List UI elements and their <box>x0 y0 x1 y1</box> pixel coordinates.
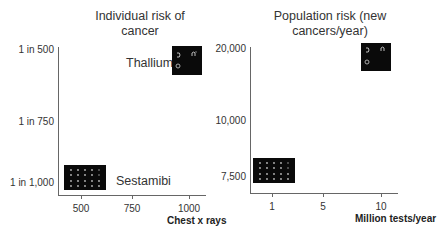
right-x-tick-5: 5 <box>303 201 343 212</box>
right-x-tick-10: 10 <box>361 201 401 212</box>
left-x-tick-750: 750 <box>112 203 152 214</box>
right-y-tick-7500: 7,500 <box>200 171 246 182</box>
sestamibi-scan-image <box>64 165 106 190</box>
right-x-tick-1: 1 <box>252 201 292 212</box>
left-x-tick-1000: 1000 <box>169 203 209 214</box>
thallium-scan-image <box>361 43 391 71</box>
right-y-tick-10000: 10,000 <box>200 115 246 126</box>
right-title-line2: cancers/year) <box>265 24 395 39</box>
thallium-scan-image <box>172 46 202 75</box>
right-chart-title: Population risk (new cancers/year) <box>265 9 395 39</box>
left-x-tick-500: 500 <box>61 203 101 214</box>
right-x-axis-title: Million tests/year <box>355 213 436 224</box>
left-y-tick-500: 1 in 500 <box>0 44 54 55</box>
right-y-tick-20000: 20,000 <box>200 43 246 54</box>
left-x-tick-mark <box>132 195 133 199</box>
left-x-axis-title: Chest x rays <box>167 215 226 226</box>
right-x-tick-mark <box>381 193 382 197</box>
right-y-axis <box>250 47 251 194</box>
right-x-tick-mark <box>323 193 324 197</box>
left-title-line1: Individual risk of <box>80 9 200 24</box>
left-x-tick-mark <box>81 195 82 199</box>
thallium-label: Thallium <box>126 56 173 70</box>
right-x-tick-mark <box>272 193 273 197</box>
left-x-tick-mark <box>189 195 190 199</box>
left-y-axis <box>58 47 59 196</box>
sestamibi-label: Sestamibi <box>116 174 171 188</box>
sestamibi-scan-image <box>253 158 295 183</box>
left-chart-title: Individual risk of cancer <box>80 9 200 39</box>
left-title-line2: cancer <box>80 24 200 39</box>
left-y-tick-1000: 1 in 1,000 <box>0 177 54 188</box>
right-title-line1: Population risk (new <box>265 9 395 24</box>
left-y-tick-750: 1 in 750 <box>0 116 54 127</box>
